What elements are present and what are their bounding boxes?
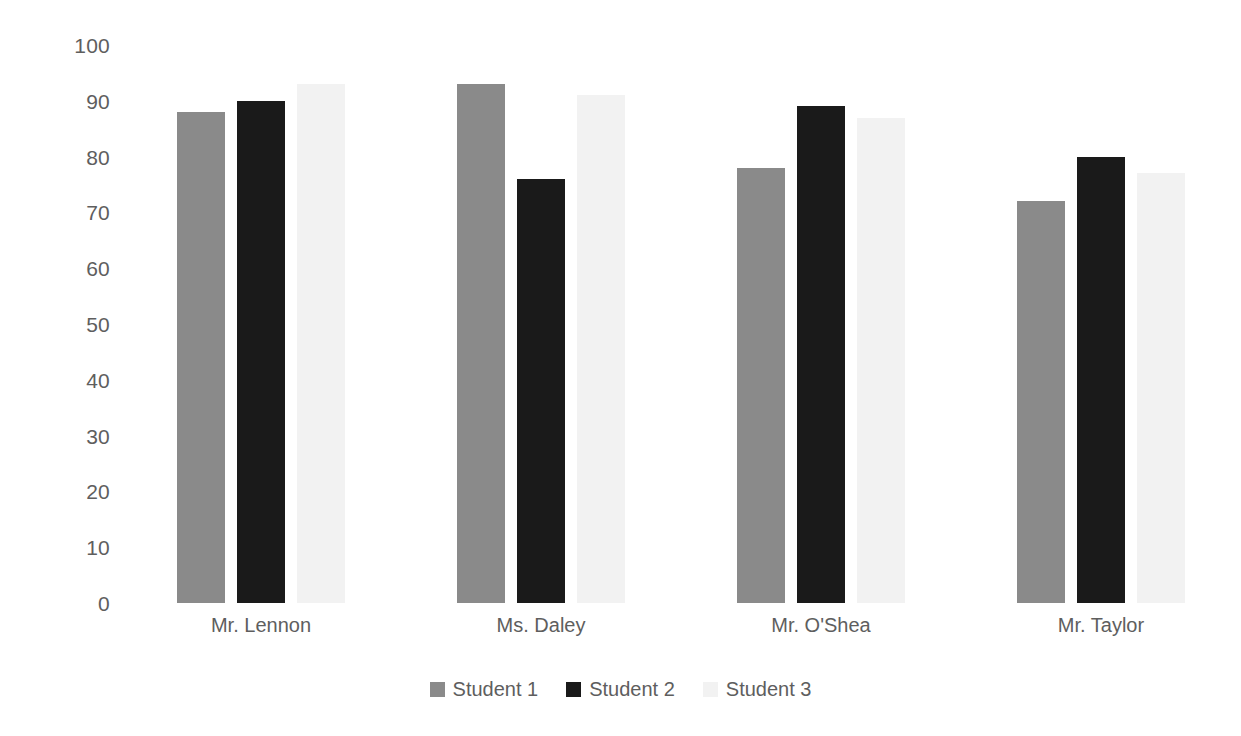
legend-item-label: Student 2	[589, 679, 675, 699]
legend-item[interactable]: Student 2	[566, 679, 675, 699]
bar[interactable]	[1077, 157, 1125, 603]
legend-swatch-icon	[703, 682, 718, 697]
bar-chart: 1009080706050403020100 Mr. LennonMs. Dal…	[0, 0, 1241, 736]
legend-swatch-icon	[430, 682, 445, 697]
bar[interactable]	[1137, 173, 1185, 603]
plot-area: Mr. LennonMs. DaleyMr. O'SheaMr. Taylor	[0, 0, 1241, 736]
legend-item[interactable]: Student 1	[430, 679, 539, 699]
chart-legend: Student 1Student 2Student 3	[0, 679, 1241, 699]
bar[interactable]	[1017, 201, 1065, 603]
legend-item[interactable]: Student 3	[703, 679, 812, 699]
legend-item-label: Student 1	[453, 679, 539, 699]
legend-item-label: Student 3	[726, 679, 812, 699]
legend-swatch-icon	[566, 682, 581, 697]
x-axis-category-label: Mr. Taylor	[1017, 613, 1185, 637]
